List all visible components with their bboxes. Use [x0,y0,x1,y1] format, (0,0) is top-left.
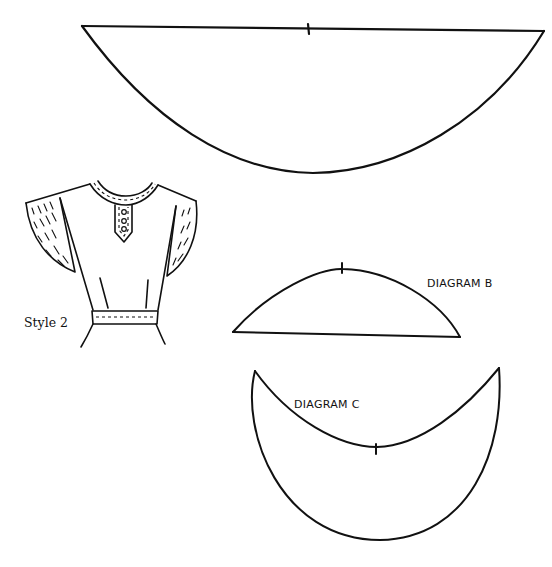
diagram-a-curved-edge [82,26,544,173]
garment-buttons [122,210,127,232]
diagram-c-label: DIAGRAM C [294,398,360,411]
left-shoulder-line [26,184,90,203]
diagram-a [82,24,544,173]
bodice-left-side [60,198,93,310]
garment-stitching [94,183,155,317]
bodice-right-side [158,206,176,310]
diagram-b-label: DIAGRAM B [427,277,493,290]
diagram-b [233,263,460,337]
right-sleeve [167,201,197,276]
left-sleeve [26,198,75,272]
diagram-c-inner-edge [255,368,499,447]
belt [92,311,158,324]
diagram-a-straight-edge [82,26,544,31]
right-shoulder-line [158,185,196,201]
skirt-right [156,324,165,344]
neckline-outer [98,181,152,196]
skirt-left [81,324,93,347]
pattern-diagram-sheet: DIAGRAM B DIAGRAM C [0,0,552,567]
diagram-a-center-notch [308,24,309,34]
diagram-b-curved-edge [233,269,460,337]
sleeve-hatching [32,202,190,266]
left-dart [100,278,108,308]
button-icon [122,210,127,215]
diagram-c [252,368,500,540]
diagram-b-straight-edge [233,332,460,337]
right-dart [146,280,148,308]
style-label: Style 2 [24,315,68,330]
button-icon [122,227,127,232]
button-icon [122,219,127,224]
